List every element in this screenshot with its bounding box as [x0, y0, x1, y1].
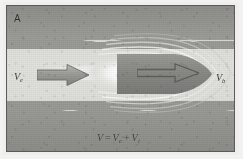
equation-term1-subscript: e	[119, 137, 122, 144]
body-velocity-subscript: b	[222, 77, 225, 84]
upper-medium-band	[7, 6, 234, 40]
body-velocity-arrow-icon	[137, 63, 199, 83]
body-velocity-label: Vb	[216, 73, 225, 83]
panel-letter: A	[14, 14, 21, 24]
equation-lhs: V	[97, 132, 104, 143]
figure-panel: A Ve Vb V=Ve+Vi	[0, 0, 243, 159]
velocity-equation: V=Ve+Vi	[97, 133, 140, 143]
equation-equals-sign: =	[104, 132, 113, 143]
figure-plate: A Ve Vb V=Ve+Vi	[6, 5, 235, 152]
flow-scene: A Ve Vb V=Ve+Vi	[7, 6, 234, 151]
inflow-velocity-label: Ve	[14, 72, 23, 82]
equation-term2-subscript: i	[138, 137, 140, 144]
equation-term2-symbol: V	[131, 132, 138, 143]
inflow-velocity-subscript: e	[20, 76, 23, 83]
inflow-arrow-icon	[37, 64, 89, 86]
lower-medium-band	[7, 111, 234, 151]
